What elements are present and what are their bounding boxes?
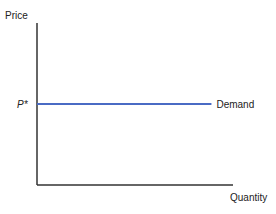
y-axis-label: Price: [5, 10, 28, 21]
equilibrium-price-label: P*: [17, 99, 29, 110]
series-label-demand: Demand: [216, 99, 254, 110]
x-axis-label: Quantity: [230, 192, 267, 203]
demand-chart: Demand Price Quantity P*: [0, 0, 276, 214]
